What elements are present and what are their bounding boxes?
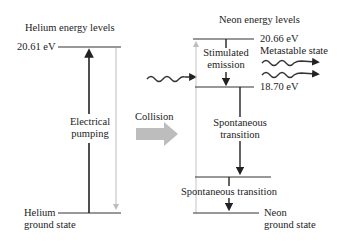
collision-arrow-icon xyxy=(136,122,178,146)
spontaneous-transition-1-line1: Spontaneous xyxy=(208,117,272,129)
outgoing-photon-wave-icon-2 xyxy=(262,73,316,78)
helium-upper-energy-label: 20.61 eV xyxy=(17,41,56,53)
collision-label: Collision xyxy=(135,111,174,123)
helium-ground-label-line1: Helium xyxy=(24,207,56,219)
incoming-photon-wave-icon xyxy=(147,77,193,82)
neon-metastable-label: Metastable state xyxy=(260,45,328,57)
helium-title: Helium energy levels xyxy=(25,22,115,34)
neon-title: Neon energy levels xyxy=(219,14,300,26)
neon-metastable-energy: 20.66 eV xyxy=(260,33,299,45)
electrical-pumping-label-line2: pumping xyxy=(64,128,116,140)
neon-ground-label-line1: Neon xyxy=(264,207,287,219)
stimulated-emission-line1: Stimulated xyxy=(198,47,254,59)
helium-ground-label-line2: ground state xyxy=(24,219,76,231)
neon-ground-label-line2: ground state xyxy=(264,219,316,231)
spontaneous-transition-1-line2: transition xyxy=(208,129,272,141)
stimulated-emission-line2: emission xyxy=(198,59,254,71)
outgoing-photon-wave-icon-1 xyxy=(262,61,316,66)
neon-lower-energy: 18.70 eV xyxy=(260,81,299,93)
electrical-pumping-label-line1: Electrical xyxy=(64,116,116,128)
spontaneous-transition-2-label: Spontaneous transition xyxy=(181,186,277,198)
